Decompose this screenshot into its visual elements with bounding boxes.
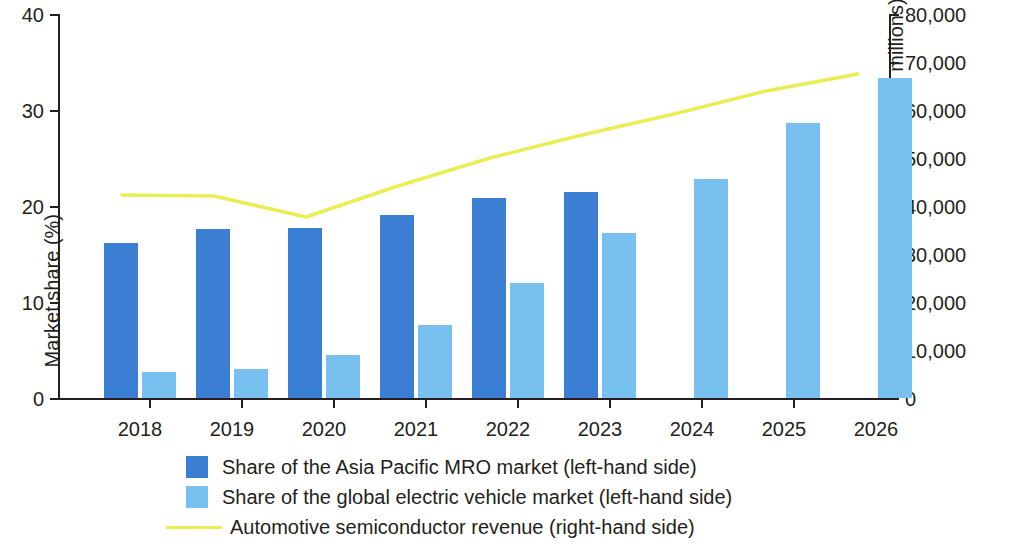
chart-container: Market share (%) Revenue (US$, millions)…: [0, 0, 1013, 546]
left-tick-label: 0: [33, 389, 44, 409]
semiconductor-revenue-line: [58, 14, 891, 400]
right-tick-label: 50,000: [905, 149, 966, 169]
left-tick-mark: [50, 110, 58, 112]
right-tick-label: 80,000: [905, 5, 966, 25]
left-tick-label: 10: [22, 293, 44, 313]
left-tick-label: 40: [22, 5, 44, 25]
legend-label-ev: Share of the global electric vehicle mar…: [222, 486, 732, 508]
x-tick-mark: [241, 400, 243, 408]
legend-swatch-mro-icon: [186, 456, 208, 478]
x-tick-label-2026: 2026: [831, 418, 921, 440]
x-tick-mark: [793, 400, 795, 408]
left-tick-mark: [50, 398, 58, 400]
x-tick-label-2018: 2018: [95, 418, 185, 440]
x-tick-label-2025: 2025: [739, 418, 829, 440]
chart-legend: Share of the Asia Pacific MRO market (le…: [0, 452, 1013, 542]
left-tick-label: 30: [22, 101, 44, 121]
right-tick-mark: [891, 398, 899, 400]
right-tick-label: 60,000: [905, 101, 966, 121]
x-tick-mark: [701, 400, 703, 408]
legend-line-revenue-icon: [166, 516, 222, 538]
legend-label-revenue: Automotive semiconductor revenue (right-…: [230, 516, 695, 538]
x-tick-label-2022: 2022: [463, 418, 553, 440]
left-tick-label: 20: [22, 197, 44, 217]
x-tick-label-2024: 2024: [647, 418, 737, 440]
legend-swatch-ev-icon: [186, 486, 208, 508]
legend-item-revenue: Automotive semiconductor revenue (right-…: [0, 512, 1013, 542]
right-tick-mark: [891, 14, 899, 16]
x-tick-mark: [333, 400, 335, 408]
x-tick-label-2019: 2019: [187, 418, 277, 440]
x-tick-mark: [425, 400, 427, 408]
legend-item-mro: Share of the Asia Pacific MRO market (le…: [0, 452, 1013, 482]
right-tick-label: 20,000: [905, 293, 966, 313]
right-tick-mark: [891, 62, 899, 64]
right-tick-label: 30,000: [905, 245, 966, 265]
legend-label-mro: Share of the Asia Pacific MRO market (le…: [222, 456, 697, 478]
x-tick-label-2021: 2021: [371, 418, 461, 440]
right-tick-label: 10,000: [905, 341, 966, 361]
x-tick-mark: [609, 400, 611, 408]
x-tick-label-2020: 2020: [279, 418, 369, 440]
x-tick-mark: [149, 400, 151, 408]
x-tick-label-2023: 2023: [555, 418, 645, 440]
left-tick-mark: [50, 206, 58, 208]
left-tick-mark: [50, 14, 58, 16]
right-tick-label: 40,000: [905, 197, 966, 217]
legend-item-ev: Share of the global electric vehicle mar…: [0, 482, 1013, 512]
left-tick-mark: [50, 302, 58, 304]
plot-area: Market share (%) Revenue (US$, millions)…: [58, 14, 891, 400]
right-tick-label: 70,000: [905, 53, 966, 73]
x-tick-mark: [517, 400, 519, 408]
